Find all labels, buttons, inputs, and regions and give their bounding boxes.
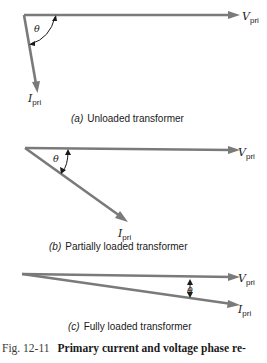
diagram-unloaded: θ Vpri Ipri (a)Unloaded transformer bbox=[24, 10, 259, 124]
figure-caption: Fig. 12-11Primary current and voltage ph… bbox=[2, 342, 246, 355]
angle-label: θ bbox=[187, 285, 193, 296]
caption-partially-loaded: (b)Partially loaded transformer bbox=[49, 241, 188, 252]
voltage-label: Vpri bbox=[238, 146, 255, 161]
angle-label: θ bbox=[53, 153, 59, 164]
voltage-label: Vpri bbox=[238, 272, 255, 287]
caption-unloaded: (a)Unloaded transformer bbox=[71, 113, 185, 124]
arc-arrow-icon bbox=[65, 149, 71, 155]
current-label: Ipri bbox=[27, 92, 41, 107]
current-label: Ipri bbox=[237, 303, 251, 318]
current-label: Ipri bbox=[117, 227, 131, 242]
caption-fully-loaded: (c)Fully loaded transformer bbox=[68, 321, 192, 332]
current-phasor bbox=[22, 274, 232, 304]
voltage-phasor bbox=[22, 274, 232, 277]
angle-label: θ bbox=[34, 23, 40, 34]
arrowhead-icon bbox=[32, 81, 40, 93]
arrowhead-icon bbox=[228, 11, 240, 19]
diagram-fully-loaded: θ Vpri Ipri (c)Fully loaded transformer bbox=[22, 272, 255, 332]
phasor-diagrams: θ Vpri Ipri (a)Unloaded transformer θ Vp… bbox=[0, 0, 267, 363]
diagram-partially-loaded: θ Vpri Ipri (b)Partially loaded transfor… bbox=[25, 146, 255, 252]
current-phasor bbox=[25, 148, 120, 216]
voltage-phasor bbox=[25, 148, 232, 150]
voltage-label: Vpri bbox=[242, 10, 259, 25]
